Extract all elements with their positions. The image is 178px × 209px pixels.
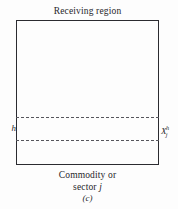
flow-variable-subscript: j xyxy=(166,131,168,138)
row-index-symbol-h: h xyxy=(5,123,16,134)
panel-caption: (c) xyxy=(16,193,159,204)
flow-variable-superscript: h xyxy=(166,124,169,131)
commodity-sector-label-line1: Commodity or xyxy=(59,170,116,180)
dashed-flow-line-upper xyxy=(16,117,159,118)
commodity-sector-label-line2-prefix: sector xyxy=(73,182,99,192)
figure-panel-c: Receiving region h Xhj Commodity or sect… xyxy=(0,0,178,209)
receiving-region-label: Receiving region xyxy=(16,5,159,17)
dashed-flow-line-lower xyxy=(16,140,159,141)
region-sector-box xyxy=(16,20,159,165)
flow-variable-symbol: Xhj xyxy=(161,122,167,140)
commodity-sector-label: Commodity or sector j xyxy=(16,170,159,193)
commodity-sector-index-symbol: j xyxy=(99,182,102,192)
